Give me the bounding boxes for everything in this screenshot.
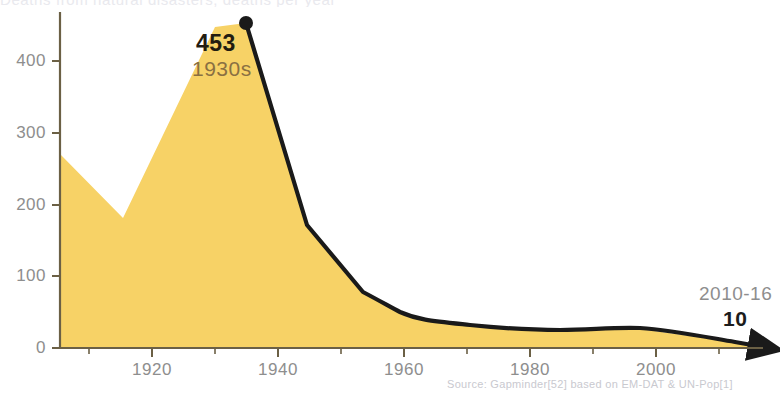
y-tick-label-100: 100 [4,266,46,286]
y-tick-label-200: 200 [4,195,46,215]
x-axis-major-ticks [152,348,656,357]
chart-figure: Deaths from natural disasters, deaths pe… [0,0,780,408]
y-axis-ticks [52,61,60,348]
end-period-label: 2010-16 [699,283,772,305]
x-tick-label-1920: 1920 [132,360,172,380]
x-tick-label-1980: 1980 [510,360,550,380]
peak-value-label: 453 [196,30,236,57]
peak-period-label: 1930s [192,57,252,81]
x-tick-label-1940: 1940 [258,360,298,380]
area-fill [60,23,763,348]
x-tick-label-1960: 1960 [384,360,424,380]
source-note: Source: Gapminder[52] based on EM-DAT & … [447,378,733,390]
y-tick-label-400: 400 [4,51,46,71]
y-tick-label-0: 0 [4,338,46,358]
x-tick-label-2000: 2000 [636,360,676,380]
end-value-label: 10 [723,307,747,331]
peak-marker-dot [239,16,253,30]
y-tick-label-300: 300 [4,123,46,143]
chart-plot-area [0,0,780,408]
